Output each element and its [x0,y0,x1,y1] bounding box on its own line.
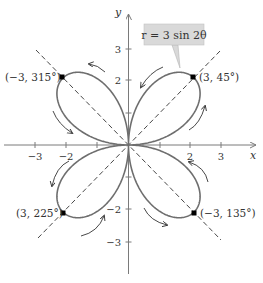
polar-rose-chart: r = 3 sin 2θ y x −3 −2 2 3 3 2 −2 −3 (3,… [0,0,263,283]
svg-text:3: 3 [115,44,121,55]
svg-text:2: 2 [115,75,121,86]
svg-text:−2: −2 [106,204,121,215]
x-tick-labels: −3 −2 2 3 [28,151,225,162]
arrow-q3-bottom [81,216,104,236]
x-axis-label: x [250,149,257,162]
point-q1 [191,75,196,80]
point-label-q1: (3, 45°) [199,71,239,83]
direction-arrows [52,64,208,236]
svg-text:−3: −3 [28,151,43,162]
point-label-q4: (−3, 135°) [200,207,256,219]
equation-label: r = 3 sin 2θ [141,29,207,42]
svg-text:−3: −3 [106,237,121,248]
arrow-q4-right [189,162,208,182]
point-label-q2: (−3, 315°) [5,71,61,83]
y-axis-label: y [114,6,122,19]
arrow-q4-bottom [144,208,167,225]
callout-pointer [172,45,180,68]
svg-text:3: 3 [218,151,224,162]
arrow-q2-top [89,64,105,72]
equation-callout: r = 3 sin 2θ [141,24,207,68]
svg-text:−2: −2 [59,151,74,162]
svg-text:2: 2 [187,151,193,162]
point-label-q3: (3, 225°) [16,207,63,219]
point-q4 [192,211,197,216]
